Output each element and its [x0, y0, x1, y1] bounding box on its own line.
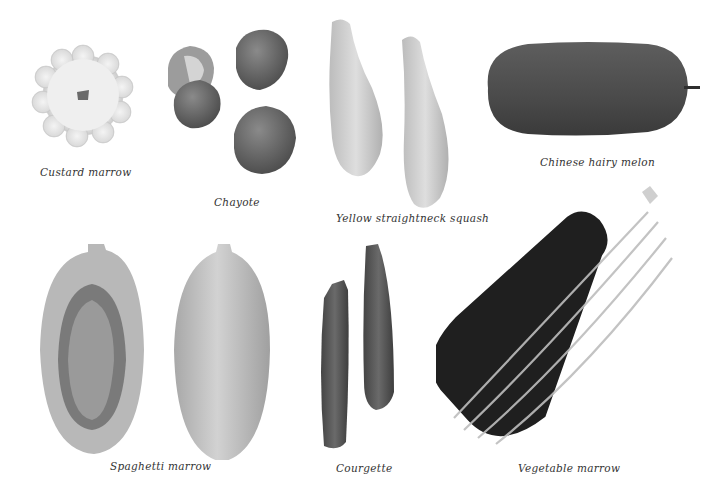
caption-chinese-hairy-melon: Chinese hairy melon [540, 156, 655, 168]
vegetable-marrow-image [436, 182, 686, 452]
caption-chayote: Chayote [214, 196, 260, 208]
chinese-hairy-melon-image [478, 38, 704, 138]
custard-marrow-image [30, 42, 136, 148]
caption-custard-marrow: Custard marrow [40, 166, 132, 178]
chayote-image [162, 28, 302, 178]
caption-vegetable-marrow: Vegetable marrow [518, 462, 620, 474]
caption-courgette: Courgette [336, 462, 392, 474]
caption-spaghetti-marrow: Spaghetti marrow [110, 460, 211, 472]
courgette-image [310, 242, 406, 452]
spaghetti-marrow-image [30, 240, 280, 460]
